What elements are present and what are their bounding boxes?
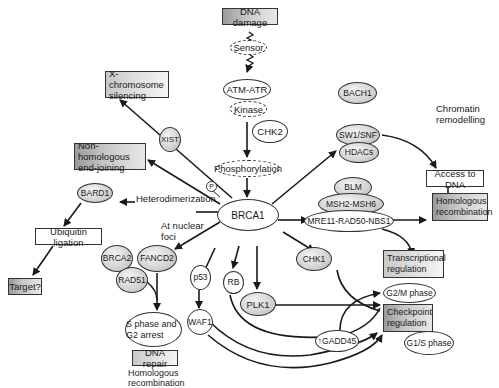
heterodimerization-label: Heterodimerization — [136, 193, 216, 204]
rb-node: RB — [223, 271, 244, 294]
s-phase-g2-arrest-node: S phase and G2 arrest — [125, 312, 182, 347]
bach1-node: BACH1 — [338, 82, 377, 104]
sensor-node: Sensor — [230, 40, 267, 55]
transcriptional-regulation-box: Transcriptional regulation — [383, 250, 444, 278]
dna-damage-box: DNA damage — [222, 8, 278, 25]
brca1-node: BRCA1 — [217, 199, 279, 231]
phosphorylation-node: Phosphorylation — [216, 160, 280, 177]
chromatin-remodelling-label: Chromatin remodelling — [436, 103, 486, 125]
nuclear-foci-label: At nuclear foci — [161, 220, 213, 242]
target-box: Target? — [8, 278, 42, 295]
mre11-rad50-nbs1-node: MRE11-RAD50-NBS1 — [304, 210, 394, 232]
nhej-box: Non-homologous end-joining — [74, 143, 146, 170]
plk1-node: PLK1 — [240, 292, 276, 316]
access-to-dna-box: Access to DNA — [426, 170, 484, 187]
x-chromosome-silencing-box: X-chromosome silencing — [105, 71, 169, 98]
bard1-node: BARD1 — [77, 183, 113, 203]
rad51-node: RAD51 — [116, 267, 148, 293]
checkpoint-regulation-box: Checkpoint regulation — [383, 304, 433, 332]
dna-repair-box: DNA repair — [132, 350, 178, 366]
waf1-node: WAF1 — [187, 309, 213, 335]
g2m-phase-node: G2/M phase — [383, 283, 436, 303]
p53-node: p53 — [190, 265, 211, 290]
g1s-phase-node: G1/S phase — [404, 331, 454, 355]
homologous-recombination-label: Homologous recombination — [128, 368, 193, 388]
phospho-marker: P — [206, 181, 217, 192]
chk1-node: CHK1 — [296, 247, 332, 271]
atm-atr-node: ATM-ATR — [223, 79, 271, 100]
brca1-pathway-diagram: DNA damage Sensor ATM-ATR Kinase CHK2 Ph… — [0, 0, 499, 388]
hdacs-node: HDACs — [339, 142, 379, 163]
gadd45-node: ↑GADD45 — [315, 330, 359, 352]
fancd2-node: FANCD2 — [137, 245, 177, 272]
homologous-recombination-box: Homologous recombination — [432, 193, 488, 221]
chk2-node: CHK2 — [252, 120, 288, 143]
xist-node: XIST — [159, 127, 181, 152]
ubiquitin-ligation-box: Ubiquitin ligation — [35, 228, 102, 245]
kinase-node: Kinase — [230, 101, 267, 117]
